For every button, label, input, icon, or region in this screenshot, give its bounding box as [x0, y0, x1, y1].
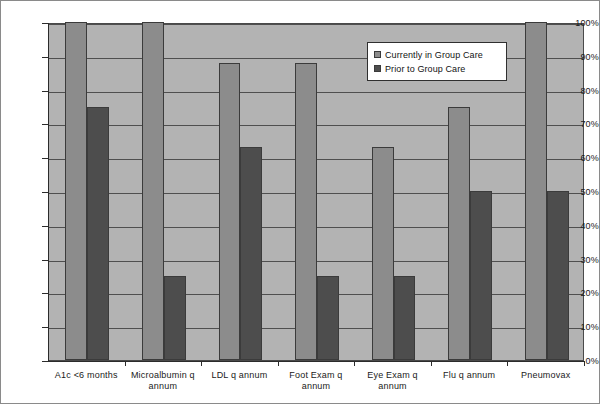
y-axis-line — [48, 23, 49, 362]
y-axis-tick — [42, 361, 48, 362]
legend-swatch-currently-in-group-care-icon — [374, 51, 381, 58]
y-axis-tick-label: 90% — [561, 52, 599, 62]
x-axis-tick — [507, 361, 508, 366]
legend-item: Currently in Group Care — [374, 48, 501, 61]
bar — [547, 191, 569, 360]
y-axis-tick — [42, 192, 48, 193]
y-axis-tick — [42, 23, 48, 24]
bar — [448, 107, 470, 361]
y-axis-tick — [42, 57, 48, 58]
bar — [372, 147, 394, 360]
y-axis-tick-label: 10% — [561, 322, 599, 332]
bar-chart-figure: 0%10%20%30%40%50%60%70%80%90%100% A1c <6… — [0, 0, 600, 404]
y-axis-tick — [42, 226, 48, 227]
bar — [317, 276, 339, 361]
y-axis-tick — [42, 124, 48, 125]
x-axis-tick-label: A1c <6 months — [48, 370, 125, 381]
bar — [394, 276, 416, 361]
legend-item: Prior to Group Care — [374, 62, 501, 75]
y-axis-tick — [42, 158, 48, 159]
x-axis-tick-label: Foot Exam q annum — [278, 370, 355, 392]
x-axis-tick-label: Eye Exam q annum — [354, 370, 431, 392]
y-axis-tick-label: 70% — [561, 119, 599, 129]
x-axis-tick-label: Pneumovax — [507, 370, 584, 381]
bar — [295, 63, 317, 360]
bar — [470, 191, 492, 360]
bar — [525, 22, 547, 360]
legend-label: Prior to Group Care — [385, 64, 465, 74]
x-axis-tick-label: LDL q annum — [201, 370, 278, 381]
y-axis-tick-label: 60% — [561, 153, 599, 163]
bar — [240, 147, 262, 360]
y-axis-tick-label: 0% — [561, 356, 599, 366]
x-axis-tick — [431, 361, 432, 366]
y-axis-tick-label: 40% — [561, 221, 599, 231]
y-axis-tick-label: 30% — [561, 255, 599, 265]
x-axis-tick — [584, 361, 585, 366]
y-axis-tick — [42, 293, 48, 294]
x-axis-tick — [201, 361, 202, 366]
legend-swatch-prior-to-group-care-icon — [374, 65, 381, 72]
x-axis-tick-label: Flu q annum — [431, 370, 508, 381]
y-axis-tick — [42, 91, 48, 92]
x-axis-tick — [354, 361, 355, 366]
y-axis-tick-label: 50% — [561, 187, 599, 197]
bar — [142, 22, 164, 360]
y-axis-tick-label: 20% — [561, 288, 599, 298]
bar — [65, 22, 87, 360]
x-axis-line — [48, 361, 585, 362]
bar — [87, 107, 109, 361]
y-axis-tick — [42, 327, 48, 328]
y-axis-tick — [42, 260, 48, 261]
bar — [164, 276, 186, 361]
bar — [219, 63, 241, 360]
x-axis-tick-label: Microalbumin q annum — [125, 370, 202, 392]
x-axis-tick — [278, 361, 279, 366]
x-axis-tick — [125, 361, 126, 366]
legend-label: Currently in Group Care — [385, 50, 483, 60]
y-axis-tick-label: 80% — [561, 86, 599, 96]
y-axis-tick-label: 100% — [561, 18, 599, 28]
legend: Currently in Group Care Prior to Group C… — [367, 42, 507, 81]
